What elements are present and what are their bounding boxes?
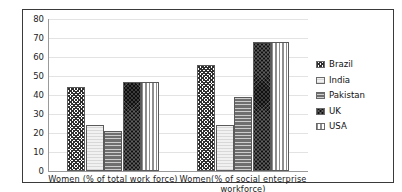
- legend-swatch-icon: [316, 123, 325, 130]
- legend-item-usa[interactable]: USA: [316, 120, 392, 133]
- y-tick-label: 0: [20, 167, 44, 175]
- bar-india[interactable]: [86, 125, 104, 171]
- bar-india[interactable]: [216, 125, 234, 171]
- legend-item-pakistan[interactable]: Pakistan: [316, 89, 392, 102]
- y-tick-label: 40: [20, 91, 44, 99]
- legend-label: Brazil: [329, 60, 353, 69]
- chart-screenshot: 80706050403020100 Women (% of total work…: [0, 0, 402, 192]
- bar-uk[interactable]: [123, 82, 141, 171]
- legend-item-uk[interactable]: UK: [316, 105, 392, 118]
- legend-label: UK: [329, 107, 341, 116]
- legend-swatch-icon: [316, 77, 325, 84]
- x-axis-category-labels: Women (% of total work force)Women(% of …: [48, 174, 308, 192]
- legend-label: India: [329, 76, 350, 85]
- bar-pakistan[interactable]: [234, 97, 252, 171]
- chart-legend: BrazilIndiaPakistanUKUSA: [316, 58, 392, 136]
- legend-label: Pakistan: [329, 91, 365, 100]
- bar-uk[interactable]: [253, 42, 271, 171]
- bar-usa[interactable]: [271, 42, 289, 171]
- y-tick-label: 80: [20, 15, 44, 23]
- y-tick-label: 70: [20, 34, 44, 42]
- x-category-label: Women (% of total work force): [48, 174, 178, 184]
- y-tick-label: 60: [20, 53, 44, 61]
- legend-swatch-icon: [316, 108, 325, 115]
- y-tick-label: 50: [20, 72, 44, 80]
- bar-group: [197, 19, 289, 171]
- legend-item-india[interactable]: India: [316, 74, 392, 87]
- plot-area: [48, 19, 308, 172]
- legend-label: USA: [329, 122, 347, 131]
- y-tick-label: 30: [20, 110, 44, 118]
- y-tick-label: 10: [20, 148, 44, 156]
- bar-group: [67, 19, 159, 171]
- y-axis-tick-labels: 80706050403020100: [14, 19, 44, 172]
- x-category-label: Women(% of social enterprise workforce): [178, 174, 308, 192]
- legend-item-brazil[interactable]: Brazil: [316, 58, 392, 71]
- bar-brazil[interactable]: [67, 87, 85, 171]
- bar-brazil[interactable]: [197, 65, 215, 171]
- y-axis-line: [48, 19, 49, 172]
- y-tick-label: 20: [20, 129, 44, 137]
- bar-pakistan[interactable]: [104, 131, 122, 171]
- bar-usa[interactable]: [141, 82, 159, 171]
- legend-swatch-icon: [316, 61, 325, 68]
- legend-swatch-icon: [316, 92, 325, 99]
